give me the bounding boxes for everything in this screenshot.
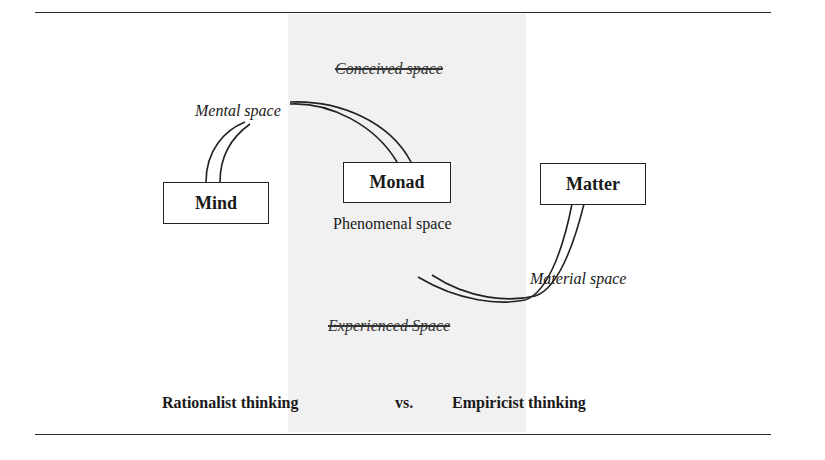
mind-node: Mind [163, 182, 269, 224]
matter-node: Matter [540, 163, 646, 205]
caption-rationalist: Rationalist thinking [162, 394, 298, 412]
mind-monad-arc-inner [220, 124, 250, 182]
bottom-rule [35, 434, 771, 435]
monad-arc-inner [290, 102, 411, 162]
monad-node: Monad [343, 162, 451, 203]
phenomenal-space-label: Phenomenal space [333, 215, 452, 233]
material-space-label: Material space [530, 270, 626, 288]
monad-arc-outer [290, 104, 397, 162]
experienced-space-label: Experienced Space [328, 317, 450, 335]
caption-vs: vs. [395, 394, 413, 412]
caption-empiricist: Empiricist thinking [452, 394, 586, 412]
conceived-space-label: Conceived space [335, 60, 443, 78]
mental-space-label: Mental space [195, 102, 281, 120]
